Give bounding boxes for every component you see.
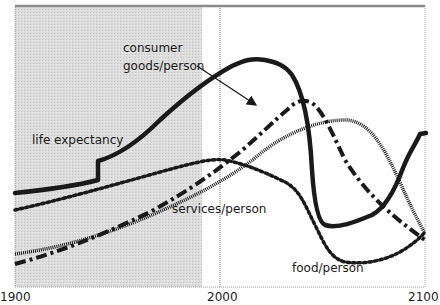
consumer-goods-annotation-arrow [197,66,256,105]
x-tick-2000: 2000 [207,290,238,304]
x-tick-1900: 1900 [0,290,31,304]
label-consumer-goods-line2: goods/person [123,59,204,73]
label-life-expectancy: life expectancy [32,133,123,147]
x-tick-2100: 2100 [408,290,439,304]
label-services-per-person: services/person [172,202,266,216]
chart: consumer goods/person life expectancy se… [0,0,440,305]
label-consumer-goods-line1: consumer [123,41,182,55]
label-food-per-person: food/person [292,261,364,275]
